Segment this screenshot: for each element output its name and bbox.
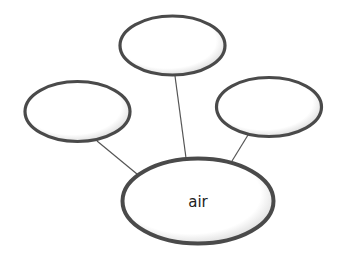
- node-center[interactable]: air: [123, 159, 274, 244]
- node-top[interactable]: [120, 16, 225, 75]
- node-left[interactable]: [25, 82, 130, 142]
- concept-web-diagram: air: [0, 0, 343, 261]
- connector-left: [97, 141, 137, 174]
- connector-top: [175, 76, 186, 158]
- node-center-label: air: [188, 193, 208, 211]
- connector-right: [232, 135, 248, 161]
- node-right[interactable]: [217, 78, 322, 137]
